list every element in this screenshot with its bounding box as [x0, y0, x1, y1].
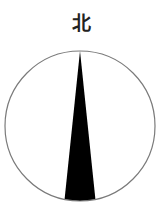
compass-needle [64, 51, 96, 205]
north-arrow-icon [0, 0, 162, 215]
